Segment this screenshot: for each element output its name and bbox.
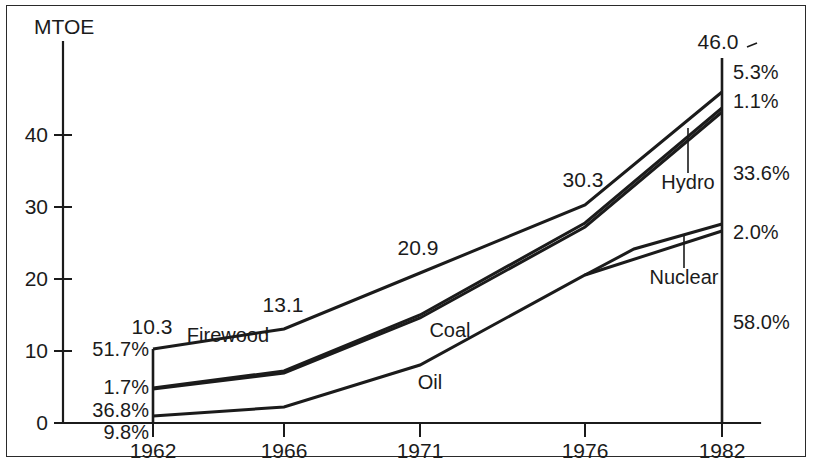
y-tick-0: 0 xyxy=(36,411,48,434)
x-tick-1976: 1976 xyxy=(562,439,609,462)
series-label-hydro: Hydro xyxy=(661,171,714,193)
total-boundary xyxy=(153,92,722,349)
total-label-1982: 46.0 xyxy=(698,30,739,53)
y-tick-10: 10 xyxy=(25,339,48,362)
y-axis-unit-label: MTOE xyxy=(34,15,94,38)
pct-1962-firewood: 51.7% xyxy=(92,338,149,360)
pct-1982-oil: 58.0% xyxy=(733,311,790,333)
y-axis xyxy=(54,42,72,423)
x-axis xyxy=(63,423,760,437)
y-tick-20: 20 xyxy=(25,267,48,290)
x-tick-1966: 1966 xyxy=(261,439,308,462)
pct-1982-coal: 33.6% xyxy=(733,162,790,184)
total-label-1966: 13.1 xyxy=(263,293,304,316)
pct-1962-coal: 36.8% xyxy=(92,399,149,421)
series-label-oil: Oil xyxy=(418,371,442,393)
total-label-1971: 20.9 xyxy=(398,236,439,259)
series-label-nuclear: Nuclear xyxy=(650,266,719,288)
total-1982-leader-icon xyxy=(747,43,757,47)
pct-1982-nuclear: 2.0% xyxy=(733,221,779,243)
pct-1962-hydro: 1.7% xyxy=(103,376,149,398)
pct-1982-firewood: 5.3% xyxy=(733,61,779,83)
y-tick-40: 40 xyxy=(25,123,48,146)
x-tick-1971: 1971 xyxy=(397,439,444,462)
total-label-1976: 30.3 xyxy=(563,168,604,191)
x-tick-1982: 1982 xyxy=(699,439,746,462)
pct-1962-oil: 9.8% xyxy=(103,421,149,443)
series-label-firewood: Firewood xyxy=(187,324,269,346)
total-label-1962: 10.3 xyxy=(132,315,173,338)
y-tick-30: 30 xyxy=(25,195,48,218)
energy-mix-area-chart: 0 10 20 30 40 MTOE 1962 1966 1971 1976 1… xyxy=(0,0,814,465)
chart-canvas: 0 10 20 30 40 MTOE 1962 1966 1971 1976 1… xyxy=(0,0,814,465)
series-label-coal: Coal xyxy=(429,319,470,341)
pct-1982-hydro: 1.1% xyxy=(733,90,779,112)
